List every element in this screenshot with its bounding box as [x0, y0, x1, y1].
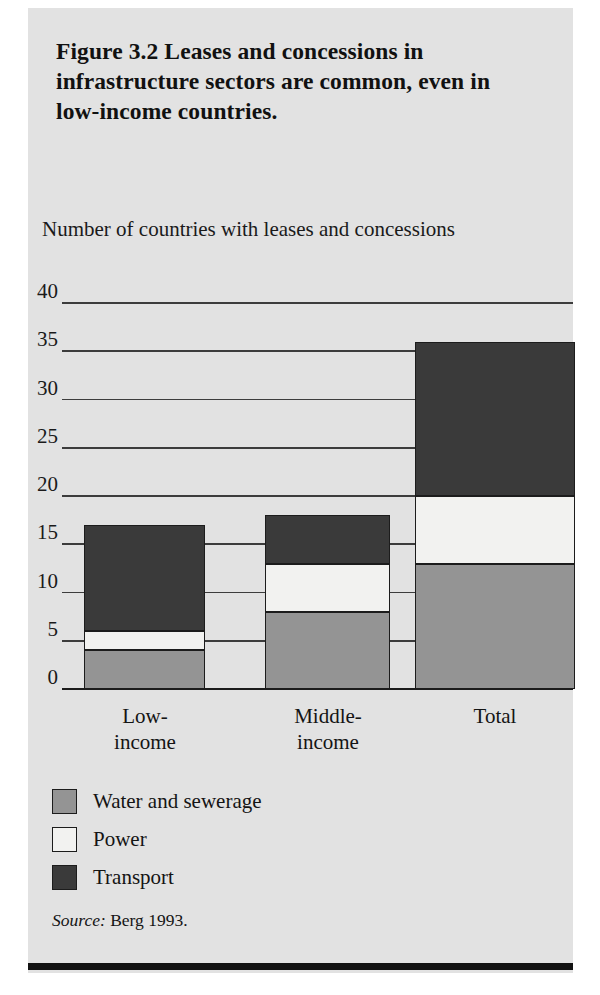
source-note: Source: Berg 1993. [52, 910, 188, 931]
legend-item: Power [52, 820, 262, 858]
legend-label: Water and sewerage [93, 789, 262, 814]
legend-item: Transport [52, 858, 262, 896]
figure-title: Figure 3.2 Leases and concessions in inf… [56, 36, 526, 126]
chart-legend: Water and seweragePowerTransport [52, 782, 262, 896]
legend-swatch-icon [52, 827, 77, 852]
legend-label: Transport [93, 865, 174, 890]
legend-swatch-icon [52, 865, 77, 890]
source-keyword: Source: [52, 910, 106, 930]
legend-swatch-icon [52, 789, 77, 814]
y-axis-title: Number of countries with leases and conc… [42, 216, 502, 243]
legend-label: Power [93, 827, 147, 852]
legend-item: Water and sewerage [52, 782, 262, 820]
source-text: Berg 1993. [110, 910, 187, 930]
figure-bottom-rule [28, 963, 573, 970]
